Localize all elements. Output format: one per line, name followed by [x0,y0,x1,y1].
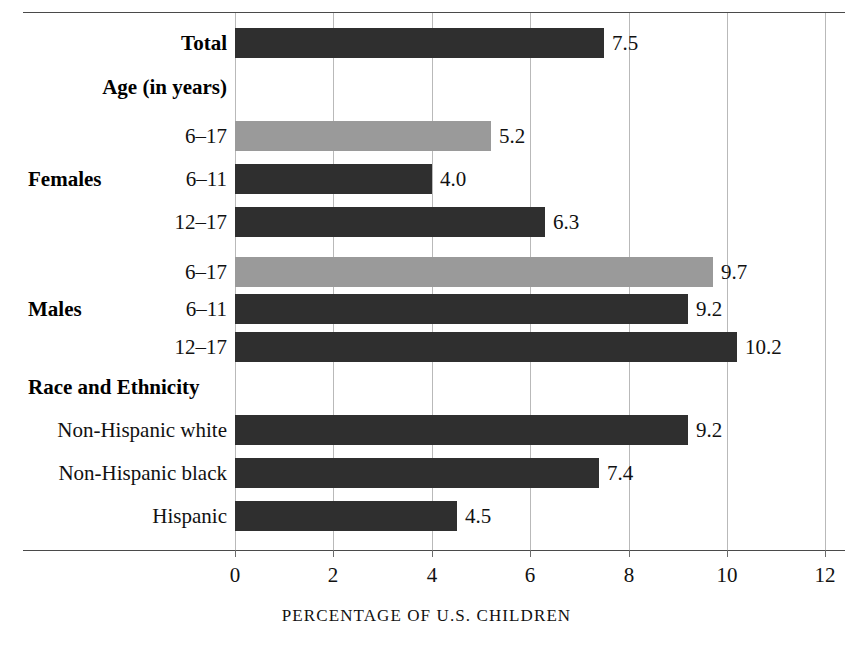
axis-tick-6 [530,550,531,557]
axis-tick-label-8: 8 [624,565,635,586]
bar-row-males-12-17: 12–17 10.2 [0,332,853,362]
bar-row-hispanic: Hispanic 4.5 [0,501,853,531]
bar-row-total: Total 7.5 [0,28,853,58]
bar-row-females-12-17: 12–17 6.3 [0,207,853,237]
group-label-males: Males [28,299,82,320]
axis-tick-0 [235,550,236,557]
bar-value-total: 7.5 [612,33,638,54]
section-heading-age: Age (in years) [0,72,853,102]
axis-tick-8 [629,550,630,557]
x-axis-title: PERCENTAGE OF U.S. CHILDREN [0,606,853,626]
bar-chart-figure: Total 7.5 Age (in years) 6–17 5.2 Female… [0,0,853,647]
axis-tick-4 [432,550,433,557]
group-label-females: Females [28,169,101,190]
axis-tick-label-10: 10 [717,565,738,586]
axis-tick-label-4: 4 [427,565,438,586]
bar-nh-black[interactable] [235,458,599,488]
axis-rule [23,550,845,551]
axis-tick-10 [727,550,728,557]
row-label-total: Total [181,33,227,54]
bar-total[interactable] [235,28,604,58]
row-label-nh-white: Non-Hispanic white [57,420,227,441]
bar-value-males-6-11: 9.2 [696,299,722,320]
bar-females-6-17[interactable] [235,121,491,151]
section-heading-age-label: Age (in years) [102,77,227,98]
bar-value-nh-white: 9.2 [696,420,722,441]
axis-tick-2 [333,550,334,557]
bar-row-males-6-11: Males 6–11 9.2 [0,294,853,324]
bar-nh-white[interactable] [235,415,688,445]
bar-value-females-6-17: 5.2 [499,126,525,147]
bar-row-nh-black: Non-Hispanic black 7.4 [0,458,853,488]
axis-tick-label-6: 6 [525,565,536,586]
bar-row-nh-white: Non-Hispanic white 9.2 [0,415,853,445]
bar-value-females-6-11: 4.0 [440,169,466,190]
bar-males-6-11[interactable] [235,294,688,324]
row-label-hispanic: Hispanic [152,506,227,527]
row-label-females-6-17: 6–17 [185,126,227,147]
bar-males-6-17[interactable] [235,257,713,287]
bar-value-males-12-17: 10.2 [745,337,782,358]
bar-value-males-6-17: 9.7 [721,262,747,283]
bar-females-12-17[interactable] [235,207,545,237]
row-label-females-6-11: 6–11 [186,169,227,190]
row-label-males-12-17: 12–17 [175,337,228,358]
section-heading-race-label: Race and Ethnicity [28,377,200,398]
section-heading-race: Race and Ethnicity [0,372,853,402]
row-label-females-12-17: 12–17 [175,212,228,233]
bar-row-females-6-17: 6–17 5.2 [0,121,853,151]
bar-females-6-11[interactable] [235,164,432,194]
bar-value-hispanic: 4.5 [465,506,491,527]
bar-value-females-12-17: 6.3 [553,212,579,233]
axis-tick-label-0: 0 [230,565,241,586]
bar-row-females-6-11: Females 6–11 4.0 [0,164,853,194]
axis-tick-label-2: 2 [328,565,339,586]
bar-hispanic[interactable] [235,501,457,531]
bar-row-males-6-17: 6–17 9.7 [0,257,853,287]
row-label-males-6-11: 6–11 [186,299,227,320]
axis-tick-label-12: 12 [815,565,836,586]
bar-value-nh-black: 7.4 [607,463,633,484]
row-label-nh-black: Non-Hispanic black [58,463,227,484]
bar-males-12-17[interactable] [235,332,737,362]
axis-tick-12 [825,550,826,557]
row-label-males-6-17: 6–17 [185,262,227,283]
